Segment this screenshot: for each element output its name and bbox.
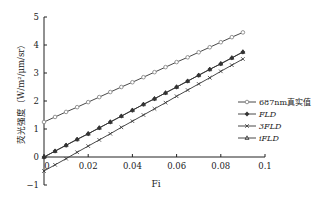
legend-label: 687nm真实值 — [259, 97, 311, 107]
legend-label: iFLD — [259, 134, 279, 143]
y-tick-label: −1 — [26, 180, 39, 190]
y-tick-label: 3 — [34, 68, 39, 78]
x-axis-label: Fi — [151, 179, 160, 189]
legend-item: 687nm真实值 — [238, 97, 311, 107]
y-axis-label: 荧光强度（W/m²/μm/sr） — [16, 40, 26, 145]
y-tick-label: 1 — [34, 124, 39, 134]
legend: 687nm真实值FLD3FLDiFLD — [238, 97, 311, 143]
y-tick-label: 4 — [34, 40, 39, 50]
x-tick-label: 0.08 — [211, 161, 230, 171]
series-3fld — [42, 57, 245, 173]
legend-label: FLD — [258, 110, 277, 119]
series-group — [42, 31, 246, 173]
legend-item: 3FLD — [238, 122, 282, 131]
chart: −101234500.020.040.060.080.1 687nm真实值FLD… — [0, 0, 328, 199]
x-tick-label: 0.06 — [167, 161, 186, 171]
legend-item: iFLD — [238, 134, 279, 143]
y-tick-label: 0 — [34, 152, 39, 162]
x-tick-label: 0.02 — [79, 161, 98, 171]
legend-item: FLD — [238, 110, 277, 119]
y-tick-label: 2 — [34, 96, 39, 106]
y-tick-label: 5 — [34, 12, 39, 22]
x-tick-label: 0.04 — [123, 161, 142, 171]
series-687nm- — [42, 31, 245, 124]
x-tick-label: 0.1 — [258, 161, 272, 171]
series-ifld — [42, 50, 245, 159]
legend-label: 3FLD — [259, 122, 282, 131]
